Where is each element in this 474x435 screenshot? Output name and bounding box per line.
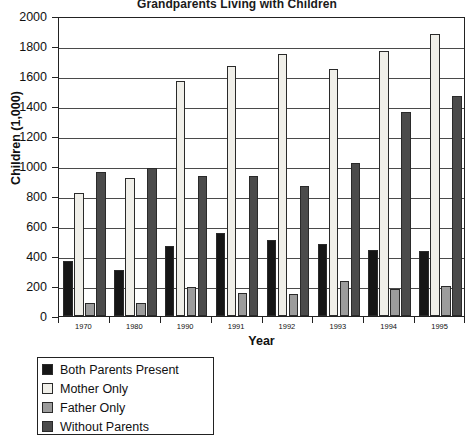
x-axis-tick-label: 1995 (431, 322, 448, 331)
y-axis: 2000180016001400120010008006004002000 (0, 17, 58, 317)
bar-group (59, 18, 110, 316)
bar-group (110, 18, 161, 316)
x-axis-tick-mark (363, 317, 364, 323)
bars-layer (59, 18, 464, 316)
bar (198, 176, 208, 316)
bar (379, 51, 389, 316)
legend-item[interactable]: Mother Only (42, 379, 213, 398)
bar (368, 250, 378, 316)
bar-group (161, 18, 212, 316)
legend-swatch-icon (42, 364, 53, 375)
y-axis-tick-label: 800 (26, 190, 47, 204)
y-axis-tick-label: 200 (26, 280, 47, 294)
bar (267, 240, 277, 316)
bar (249, 176, 259, 316)
bar (340, 281, 350, 316)
y-axis-tick-label: 600 (26, 220, 47, 234)
x-axis-tick-label: 1994 (380, 322, 397, 331)
legend-swatch-icon (42, 421, 53, 432)
x-axis-tick-mark (109, 317, 110, 323)
y-axis-tick-label: 1400 (19, 100, 47, 114)
x-axis-tick-mark (262, 317, 263, 323)
legend-label: Mother Only (60, 382, 128, 396)
bar (125, 178, 135, 316)
y-axis-tick-label: 400 (26, 250, 47, 264)
y-axis-tick-label: 2000 (19, 10, 47, 24)
bar (329, 69, 339, 316)
legend-item[interactable]: Both Parents Present (42, 360, 213, 379)
bar (227, 66, 237, 317)
legend-label: Father Only (60, 401, 125, 415)
bar (63, 261, 73, 317)
bar (74, 193, 84, 316)
bar (289, 294, 299, 316)
x-axis: 19701980199019911992199319941995 (58, 317, 465, 335)
x-axis-tick-mark (414, 317, 415, 323)
bar (216, 233, 226, 316)
y-axis-tick-label: 1600 (19, 70, 47, 84)
bar (300, 186, 310, 317)
x-axis-tick-mark (464, 317, 465, 323)
y-axis-tick-label: 1800 (19, 40, 47, 54)
bar-group (415, 18, 466, 316)
bar-group (313, 18, 364, 316)
y-axis-tick-label: 1000 (19, 160, 47, 174)
legend-item[interactable]: Father Only (42, 398, 213, 417)
bar (351, 163, 361, 316)
bar-group (263, 18, 314, 316)
legend-label: Without Parents (60, 420, 149, 434)
bar (165, 246, 175, 317)
x-axis-tick-label: 1992 (279, 322, 296, 331)
x-axis-tick-label: 1993 (329, 322, 346, 331)
bar (136, 303, 146, 316)
y-axis-tick-label: 0 (40, 310, 47, 324)
legend-item[interactable]: Without Parents (42, 417, 213, 435)
bar (401, 112, 411, 316)
bar (96, 172, 106, 316)
bar (441, 286, 451, 316)
bar (85, 303, 95, 316)
bar (238, 293, 248, 316)
x-axis-tick-mark (160, 317, 161, 323)
bar (176, 81, 186, 316)
legend-swatch-icon (42, 402, 53, 413)
x-axis-tick-label: 1980 (126, 322, 143, 331)
bar (278, 54, 288, 316)
bar (147, 168, 157, 316)
chart-legend: Both Parents PresentMother OnlyFather On… (37, 357, 214, 435)
chart-title: Grandparents Living with Children (0, 0, 474, 11)
x-axis-tick-label: 1991 (228, 322, 245, 331)
x-axis-title: Year (58, 334, 465, 348)
bar (114, 270, 124, 317)
bar (187, 287, 197, 316)
bar (452, 96, 462, 316)
bar-group (212, 18, 263, 316)
y-axis-tick-label: 1200 (19, 130, 47, 144)
bar-group (364, 18, 415, 316)
bar (390, 289, 400, 316)
x-axis-tick-mark (211, 317, 212, 323)
x-axis-tick-mark (312, 317, 313, 323)
x-axis-tick-mark (58, 317, 59, 323)
plot-area (58, 17, 465, 317)
x-axis-tick-label: 1970 (75, 322, 92, 331)
legend-swatch-icon (42, 383, 53, 394)
legend-label: Both Parents Present (60, 363, 179, 377)
bar (430, 34, 440, 316)
x-axis-tick-label: 1990 (177, 322, 194, 331)
bar (318, 244, 328, 316)
bar (419, 251, 429, 316)
